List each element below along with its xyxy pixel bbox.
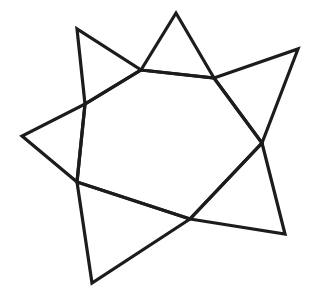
star-figure bbox=[0, 0, 313, 303]
triangle-left bbox=[22, 104, 85, 182]
triangle-bottom bbox=[77, 182, 190, 283]
star-shapes bbox=[22, 13, 298, 283]
triangle-top bbox=[141, 13, 214, 78]
triangle-upper-left bbox=[77, 29, 141, 104]
triangle-upper-right bbox=[214, 49, 298, 143]
triangle-lower-right bbox=[190, 143, 285, 234]
